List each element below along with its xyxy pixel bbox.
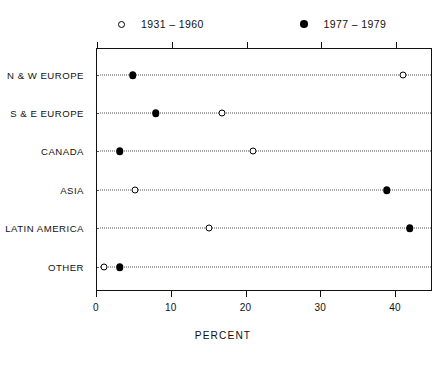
x-tick xyxy=(320,291,321,297)
gridline xyxy=(97,190,431,191)
top-tick-20 xyxy=(247,42,248,49)
x-tick-label: 0 xyxy=(93,302,99,313)
data-point-open[interactable] xyxy=(205,225,212,232)
top-tick-30 xyxy=(321,42,322,49)
x-tick-label: 40 xyxy=(389,302,401,313)
chart-figure: 1931 – 1960 1977 – 1979 N & W EUROPES & … xyxy=(0,0,446,366)
gridline xyxy=(97,151,431,152)
data-point-open[interactable] xyxy=(219,110,226,117)
gridline xyxy=(97,228,431,229)
plot-area xyxy=(96,48,432,291)
data-point-filled[interactable] xyxy=(116,263,124,271)
category-label-canada: CANADA xyxy=(41,146,84,157)
top-tick-0 xyxy=(97,42,98,49)
x-tick xyxy=(96,291,97,297)
category-label-asia: ASIA xyxy=(60,185,84,196)
x-axis-title: PERCENT xyxy=(0,330,446,341)
top-tick-40 xyxy=(396,42,397,49)
category-label-s-e-europe: S & E EUROPE xyxy=(10,108,84,119)
gridline xyxy=(97,113,431,114)
legend-label-1931-1960: 1931 – 1960 xyxy=(141,18,204,30)
x-tick-label: 10 xyxy=(165,302,177,313)
legend-item-1977-1979[interactable]: 1977 – 1979 xyxy=(300,17,386,31)
x-tick-label: 30 xyxy=(314,302,326,313)
filled-circle-marker-icon xyxy=(300,20,308,28)
category-label-n-w-europe: N & W EUROPE xyxy=(7,70,84,81)
data-point-filled[interactable] xyxy=(152,109,160,117)
legend-item-1931-1960[interactable]: 1931 – 1960 xyxy=(118,17,204,31)
data-point-filled[interactable] xyxy=(383,186,391,194)
top-tick-10 xyxy=(172,42,173,49)
data-point-filled[interactable] xyxy=(406,224,414,232)
legend-label-1977-1979: 1977 – 1979 xyxy=(324,18,387,30)
gridline xyxy=(97,267,431,268)
data-point-filled[interactable] xyxy=(129,71,137,79)
x-tick-label: 20 xyxy=(240,302,252,313)
data-point-open[interactable] xyxy=(400,72,407,79)
data-point-filled[interactable] xyxy=(116,147,124,155)
x-tick xyxy=(171,291,172,297)
category-label-latin-america: LATIN AMERICA xyxy=(5,223,84,234)
data-point-open[interactable] xyxy=(101,264,108,271)
category-label-other: OTHER xyxy=(48,262,84,273)
gridline xyxy=(97,75,431,76)
open-circle-marker-icon xyxy=(118,21,125,28)
x-tick xyxy=(246,291,247,297)
data-point-open[interactable] xyxy=(249,148,256,155)
data-point-open[interactable] xyxy=(131,187,138,194)
x-tick xyxy=(395,291,396,297)
